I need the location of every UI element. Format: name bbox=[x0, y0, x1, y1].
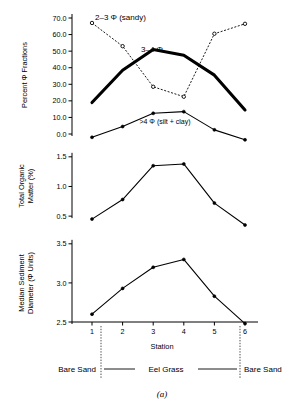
axis-tick-label: 70.0 bbox=[53, 14, 67, 23]
series-line bbox=[92, 49, 245, 109]
station-axis-title: Station bbox=[150, 342, 173, 351]
bottom-tick-labels: 2.53.03.5 bbox=[57, 239, 67, 326]
middle-series-group bbox=[91, 162, 247, 226]
data-point bbox=[244, 138, 247, 141]
data-point bbox=[213, 32, 216, 35]
series-line bbox=[92, 259, 245, 323]
sediment-figure: 0.010.020.030.040.050.060.070.0 Percent … bbox=[0, 0, 299, 404]
data-point bbox=[213, 128, 216, 131]
axis-tick-label: 3.0 bbox=[57, 279, 67, 288]
bottom-axis bbox=[69, 240, 73, 324]
label-series-fine: >4 Φ (silt + clay) bbox=[139, 118, 190, 126]
label-series-mid: 3–4 Φ bbox=[141, 45, 163, 54]
data-point bbox=[91, 136, 94, 139]
station-tick-label: 2 bbox=[121, 327, 125, 336]
axis-tick-label: 1.0 bbox=[57, 182, 67, 191]
middle-tick-labels: 0.51.01.5 bbox=[57, 152, 67, 220]
data-point bbox=[121, 125, 124, 128]
station-tick-label: 1 bbox=[90, 327, 94, 336]
axis-tick-label: 2.5 bbox=[57, 318, 67, 327]
axis-tick-label: 20.0 bbox=[53, 96, 67, 105]
middle-axis-title-line2: Matter (%) bbox=[26, 169, 35, 204]
zone-label-right: Bare Sand bbox=[244, 365, 282, 374]
data-point bbox=[152, 85, 155, 88]
bottom-axis-title-line2: Diameter (Φ Units) bbox=[26, 252, 35, 314]
top-tick-labels: 0.010.020.030.040.050.060.070.0 bbox=[53, 14, 67, 139]
axis-tick-label: 50.0 bbox=[53, 47, 67, 56]
axis-tick-label: 0.0 bbox=[57, 130, 67, 139]
data-point bbox=[182, 95, 185, 98]
label-series-sandy: 2–3 Φ (sandy) bbox=[95, 13, 146, 22]
top-axis bbox=[69, 14, 73, 136]
data-point bbox=[90, 21, 93, 24]
station-tick-labels: 123456 bbox=[90, 327, 247, 336]
station-tick-label: 6 bbox=[243, 327, 247, 336]
axis-tick-label: 3.5 bbox=[57, 239, 67, 248]
top-axis-title: Percent Φ Fractions bbox=[20, 42, 29, 108]
station-tick-label: 5 bbox=[212, 327, 216, 336]
axis-tick-label: 0.5 bbox=[57, 212, 67, 221]
data-point bbox=[121, 198, 124, 201]
zone-label-middle: Eel Grass bbox=[148, 365, 183, 374]
zone-label-left: Bare Sand bbox=[58, 365, 96, 374]
data-point bbox=[91, 218, 94, 221]
middle-axis-title-line1: Total Organic bbox=[17, 164, 26, 208]
panel-middle: 0.51.01.5 Total Organic Matter (%) bbox=[17, 152, 247, 226]
series-line bbox=[92, 112, 245, 140]
data-point bbox=[213, 295, 216, 298]
data-point bbox=[244, 224, 247, 227]
data-point bbox=[152, 112, 155, 115]
data-point bbox=[182, 258, 185, 261]
figure-canvas: 0.010.020.030.040.050.060.070.0 Percent … bbox=[0, 0, 299, 404]
axis-tick-label: 10.0 bbox=[53, 113, 67, 122]
middle-axis bbox=[69, 153, 73, 218]
bottom-axis-title-line1: Median Sediment bbox=[17, 254, 26, 312]
axis-tick-label: 40.0 bbox=[53, 63, 67, 72]
data-point bbox=[152, 164, 155, 167]
axis-tick-label: 60.0 bbox=[53, 30, 67, 39]
data-point bbox=[91, 313, 94, 316]
series-line bbox=[92, 164, 245, 225]
bottom-series-group bbox=[91, 258, 247, 325]
axis-tick-label: 1.5 bbox=[57, 152, 67, 161]
data-point bbox=[182, 162, 185, 165]
axis-tick-label: 30.0 bbox=[53, 80, 67, 89]
station-tick-label: 4 bbox=[182, 327, 186, 336]
data-point bbox=[182, 110, 185, 113]
panel-bottom: 2.53.03.5 Median Sediment Diameter (Φ Un… bbox=[17, 239, 258, 351]
station-tick-label: 3 bbox=[151, 327, 155, 336]
station-axis bbox=[72, 322, 258, 326]
data-point bbox=[243, 22, 246, 25]
data-point bbox=[121, 287, 124, 290]
data-point bbox=[213, 202, 216, 205]
data-point bbox=[152, 266, 155, 269]
figure-caption: (a) bbox=[157, 389, 168, 399]
data-point bbox=[121, 44, 124, 47]
panel-top: 0.010.020.030.040.050.060.070.0 Percent … bbox=[20, 13, 247, 141]
